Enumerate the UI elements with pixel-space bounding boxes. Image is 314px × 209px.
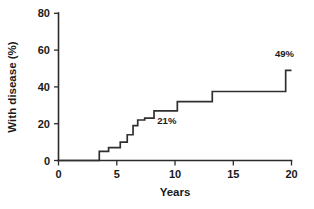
y-tick-label-20: 20 (38, 118, 50, 130)
x-tick-label-10: 10 (169, 168, 181, 180)
y-axis-title: With disease (%) (6, 41, 18, 132)
y-tick-label-0: 0 (44, 155, 50, 167)
chart-background (0, 0, 314, 209)
step-chart-canvas: 0 20 40 60 80 0 5 10 15 20 21% 49% Year (0, 0, 314, 209)
annotation-49-percent: 49% (275, 48, 295, 59)
y-tick-label-40: 40 (38, 81, 50, 93)
x-axis-title: Years (160, 186, 191, 198)
x-tick-label-15: 15 (227, 168, 239, 180)
chart-figure: 0 20 40 60 80 0 5 10 15 20 21% 49% Year (0, 0, 314, 209)
x-tick-label-5: 5 (114, 168, 120, 180)
annotation-21-percent: 21% (157, 115, 177, 126)
y-tick-label-80: 80 (38, 7, 50, 19)
y-tick-label-60: 60 (38, 44, 50, 56)
x-tick-label-0: 0 (55, 168, 61, 180)
x-tick-label-20: 20 (285, 168, 297, 180)
